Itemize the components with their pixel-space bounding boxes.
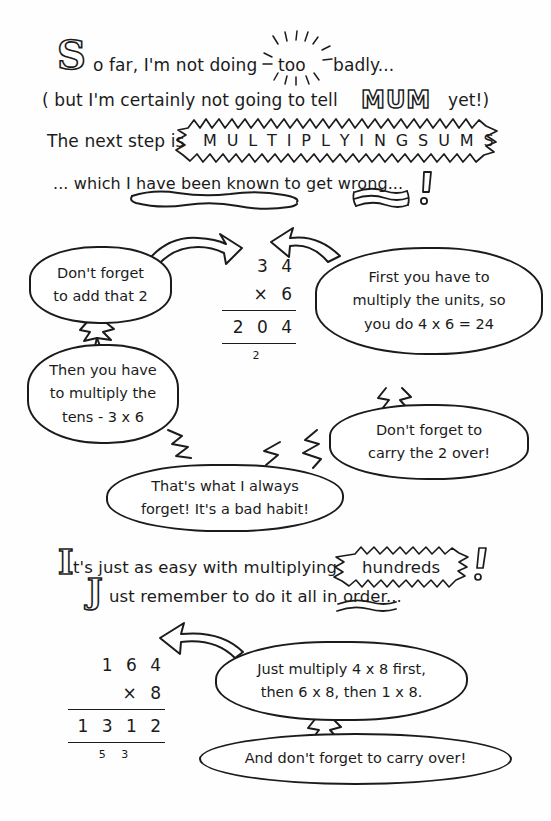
bubble-line: multiply the units, so: [352, 289, 505, 312]
sum-164x8: 1 6 4 × 8 1 3 1 2 5 3: [68, 651, 165, 763]
tail-zigzag-4: [264, 442, 280, 465]
bubble-first-multiply-units: First you have to multiply the units, so…: [315, 247, 543, 355]
bubble-line: to multiply the: [50, 382, 156, 405]
sum2-rule-top: [68, 709, 165, 710]
exclamation-1: [421, 172, 431, 204]
arrow-curved-to-sum2: [160, 623, 243, 658]
tail-spike-left: [303, 430, 321, 468]
sum1-rule-bottom: [222, 343, 296, 344]
bubble-line: First you have to: [368, 266, 489, 289]
bubble-line: Then you have: [49, 359, 157, 382]
bubble-line: you do 4 x 6 = 24: [364, 313, 494, 336]
bubble-then-multiply-tens: Then you have to multiply the tens - 3 x…: [27, 344, 179, 444]
bubble-line: carry the 2 over!: [368, 442, 490, 465]
tail-zigzag-2: [168, 430, 191, 458]
sum1-product: 2 0 4: [222, 313, 296, 341]
dropcap-i: I: [58, 546, 73, 579]
page-canvas: S o far, I'm not doing too badly... ( bu…: [0, 0, 551, 821]
bubble-line: Don't forget to: [376, 419, 482, 442]
burst-label-hundreds: hundreds: [362, 558, 440, 577]
sum2-carry: 5 3: [68, 745, 165, 763]
bubble-thats-what-i-always-forget: That's what I always forget! It's a bad …: [106, 464, 344, 532]
exclamation-2: [475, 548, 486, 580]
sum1-operator-multiplier: × 6: [222, 280, 296, 308]
bubble-line: to add that 2: [53, 285, 147, 308]
bubble-line: then 6 x 8, then 1 x 8.: [261, 681, 423, 704]
bubble-line: Just multiply 4 x 8 first,: [257, 658, 426, 681]
sum2-product: 1 3 1 2: [68, 712, 165, 740]
bubble-line: And don't forget to carry over!: [245, 747, 467, 770]
dropcap-s: S: [57, 35, 86, 75]
sum2-multiplicand: 1 6 4: [68, 651, 165, 679]
intro-line3-part-a: The next step is: [47, 131, 184, 151]
intro-line4: ... which I have been known to get wrong…: [53, 174, 403, 193]
intro-line1-part-a: o far, I'm not doing: [93, 55, 257, 75]
sum2-operator-multiplier: × 8: [68, 679, 165, 707]
squiggle-underline-1: [132, 192, 297, 202]
tail-zigzag-1: [80, 321, 97, 346]
dropcap-j: J: [87, 575, 103, 608]
intro-line2-part-b: yet!): [448, 90, 489, 110]
sum2-rule-bottom: [68, 742, 165, 743]
sum-34x6: 3 4 × 6 2 0 4 2: [222, 252, 296, 364]
sum1-carry: 2: [222, 346, 296, 364]
bubble-line: forget! It's a bad habit!: [141, 498, 309, 521]
burst-label-multiplying-sums: M U L T I P L Y I N G S U M S: [203, 131, 496, 150]
intro-line2-part-a: ( but I'm certainly not going to tell: [42, 90, 338, 110]
bubble-dont-forget-carry-2: Don't forget to carry the 2 over!: [329, 404, 529, 480]
bubble-just-multiply-order: Just multiply 4 x 8 first, then 6 x 8, t…: [215, 641, 468, 721]
intro-line1-emphasis-too: too: [278, 55, 306, 75]
bubble-line: Don't forget: [57, 262, 144, 285]
sum1-rule-top: [222, 310, 296, 311]
intro-line1-part-b: badly...: [333, 55, 394, 75]
sum1-multiplicand: 3 4: [222, 252, 296, 280]
bubble-line: That's what I always: [151, 475, 299, 498]
intro-line2-emphasis-mum: MUM: [361, 86, 431, 114]
midtext-line1-part-a: t's just as easy with multiplying: [73, 558, 337, 577]
bubble-dont-forget-add-2: Don't forget to add that 2: [29, 246, 172, 324]
bubble-line: tens - 3 x 6: [62, 406, 144, 429]
bubble-and-dont-forget-carry-over: And don't forget to carry over!: [199, 733, 512, 785]
midtext-line2-part-a: ust remember to do it all in order...: [109, 587, 402, 606]
